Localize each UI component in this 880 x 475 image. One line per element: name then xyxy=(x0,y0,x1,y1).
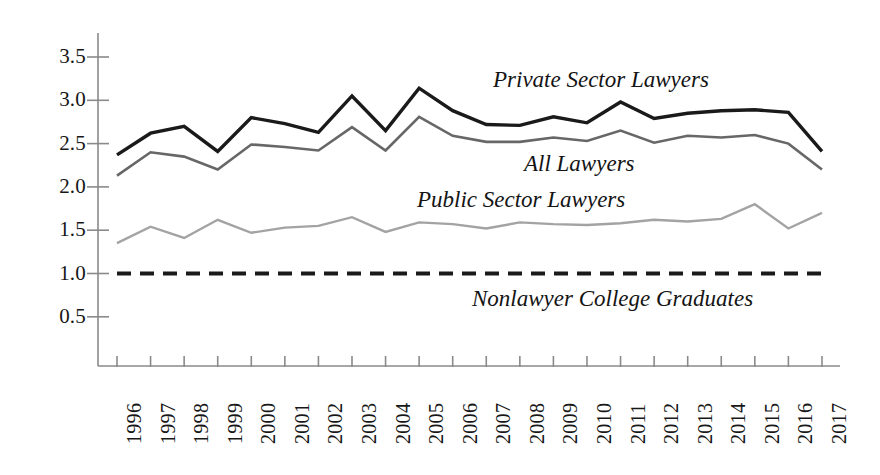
x-axis-tick-label: 2002 xyxy=(325,403,345,444)
x-axis-tick-label: 2006 xyxy=(460,403,480,444)
x-axis-tick-label: 2003 xyxy=(359,403,379,444)
x-axis-tick-label: 2004 xyxy=(393,403,413,444)
series-label-private-sector-lawyers: Private Sector Lawyers xyxy=(493,68,709,91)
x-axis-tick-label: 2007 xyxy=(493,403,513,444)
x-axis-tick-label: 1996 xyxy=(124,403,144,444)
x-axis-tick-label: 2016 xyxy=(795,403,815,444)
x-axis-tick-label: 2008 xyxy=(527,403,547,444)
x-axis-tick-label: 2012 xyxy=(661,403,681,444)
x-axis-tick-label: 1999 xyxy=(225,403,245,444)
x-axis-tick-label: 2005 xyxy=(426,403,446,444)
x-axis-tick-label: 2009 xyxy=(560,403,580,444)
x-axis-tick-label: 2010 xyxy=(594,403,614,444)
x-axis-tick-label: 2017 xyxy=(829,403,849,444)
x-axis-tick-labels: 1996199719981999200020012002200320042005… xyxy=(0,0,880,475)
x-axis-tick-label: 2001 xyxy=(292,403,312,444)
x-axis-tick-label: 1997 xyxy=(158,403,178,444)
series-label-nonlawyer-college-graduates: Nonlawyer College Graduates xyxy=(472,287,753,310)
x-axis-tick-label: 2015 xyxy=(762,403,782,444)
x-axis-tick-label: 2011 xyxy=(628,404,648,444)
x-axis-tick-label: 2014 xyxy=(728,403,748,444)
chart-figure: 3.53.02.52.01.51.00.5 199619971998199920… xyxy=(0,0,880,475)
series-label-all-lawyers: All Lawyers xyxy=(524,152,635,175)
x-axis-tick-label: 2000 xyxy=(258,403,278,444)
series-label-public-sector-lawyers: Public Sector Lawyers xyxy=(417,188,625,211)
x-axis-tick-label: 2013 xyxy=(695,403,715,444)
x-axis-tick-label: 1998 xyxy=(191,403,211,444)
